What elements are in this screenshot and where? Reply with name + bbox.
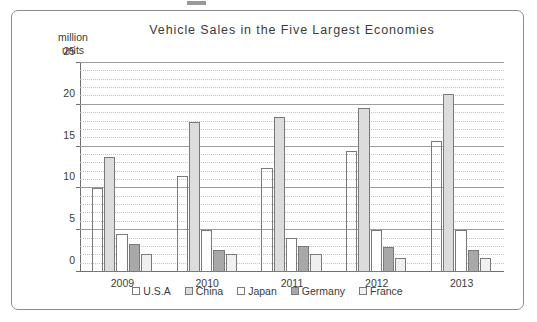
legend-label-france: France (370, 285, 403, 297)
bar-china-2011 (274, 117, 285, 272)
bar-france-2011 (310, 254, 321, 272)
bar-germany-2009 (129, 244, 140, 272)
legend-swatch-u-s-a-icon (132, 287, 140, 295)
bar-japan-2013 (455, 230, 466, 272)
chart-legend: U.S.AChinaJapanGermanyFrance (12, 285, 523, 297)
bar-france-2009 (141, 254, 152, 272)
legend-item-germany[interactable]: Germany (291, 285, 345, 297)
bar-japan-2009 (116, 234, 127, 272)
legend-item-japan[interactable]: Japan (237, 285, 277, 297)
y-tick-label: 25 (63, 45, 75, 57)
legend-item-china[interactable]: China (185, 285, 223, 297)
y-tick-label: 5 (69, 212, 75, 224)
bar-group-2009: 2009 (80, 63, 165, 272)
bar-china-2010 (189, 122, 200, 272)
legend-item-france[interactable]: France (359, 285, 403, 297)
bar-japan-2012 (371, 230, 382, 272)
bar-germany-2012 (383, 247, 394, 272)
legend-label-u-s-a: U.S.A (143, 285, 170, 297)
bar-france-2012 (395, 258, 406, 272)
plot-area: 0510152025 20092010201120122013 (80, 63, 504, 272)
bar-u-s-a-2011 (261, 168, 272, 272)
bar-group-2010: 2010 (165, 63, 250, 272)
bar-germany-2010 (213, 250, 224, 272)
y-tick-label: 20 (63, 87, 75, 99)
bar-japan-2010 (201, 230, 212, 272)
chart-title: Vehicle Sales in the Five Largest Econom… (92, 23, 492, 37)
chart-figure-frame: Vehicle Sales in the Five Largest Econom… (11, 10, 524, 310)
legend-label-china: China (196, 285, 223, 297)
bar-u-s-a-2010 (177, 176, 188, 272)
bar-france-2013 (480, 258, 491, 272)
y-tick-label: 15 (63, 129, 75, 141)
bar-group-2013: 2013 (419, 63, 504, 272)
scan-artifact-mark (187, 1, 206, 5)
bar-germany-2013 (468, 250, 479, 272)
legend-label-germany: Germany (302, 285, 345, 297)
y-tick-label: 0 (69, 254, 75, 266)
bar-u-s-a-2009 (92, 188, 103, 272)
legend-swatch-china-icon (185, 287, 193, 295)
bar-u-s-a-2012 (346, 151, 357, 272)
bar-germany-2011 (298, 246, 309, 272)
bar-group-2011: 2011 (250, 63, 335, 272)
legend-label-japan: Japan (248, 285, 277, 297)
legend-swatch-france-icon (359, 287, 367, 295)
bar-china-2013 (443, 94, 454, 272)
bar-u-s-a-2013 (431, 141, 442, 272)
bar-china-2009 (104, 157, 115, 272)
bar-japan-2011 (286, 238, 297, 272)
legend-swatch-japan-icon (237, 287, 245, 295)
bar-france-2010 (226, 254, 237, 272)
y-tick-label: 10 (63, 170, 75, 182)
legend-item-u-s-a[interactable]: U.S.A (132, 285, 170, 297)
bar-china-2012 (358, 108, 369, 272)
legend-swatch-germany-icon (291, 287, 299, 295)
bar-group-2012: 2012 (334, 63, 419, 272)
